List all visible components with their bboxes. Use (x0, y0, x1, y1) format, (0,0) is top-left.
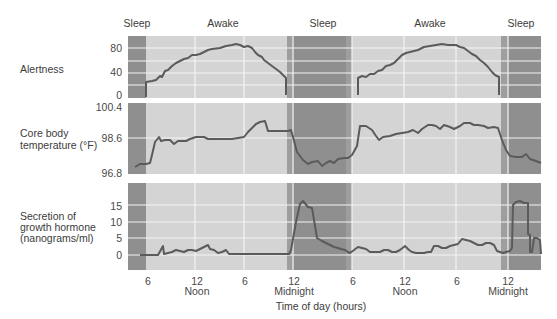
hormone-tick-0: 0 (116, 249, 122, 261)
x-axis-labels: 6 12 Noon 6 12 Midnight 6 12 Noon 6 12 M… (145, 275, 528, 312)
alertness-tick-0: 0 (116, 89, 122, 101)
alertness-tick-80: 80 (110, 42, 122, 54)
x-tick-6pm-1: 6 (242, 275, 248, 287)
temperature-tick-96-8: 96.8 (102, 167, 123, 179)
x-tick-midnight-2-sub: Midnight (488, 285, 528, 297)
hormone-tick-15: 15 (110, 200, 122, 212)
phase-label-awake-2: Awake (414, 17, 445, 29)
phase-label-sleep-3: Sleep (508, 17, 535, 29)
alertness-tick-40: 40 (110, 66, 122, 78)
panel-label-temperature-2: temperature (°F) (20, 139, 97, 151)
x-tick-6am-2: 6 (350, 275, 356, 287)
x-axis-title: Time of day (hours) (276, 300, 367, 312)
x-tick-midnight-1-sub: Midnight (274, 285, 314, 297)
panel-label-alertness: Alertness (20, 63, 64, 75)
phase-labels: Sleep Awake Sleep Awake Sleep (124, 17, 535, 29)
y-axis-labels: Alertness 80 40 0 Core body temperature … (20, 42, 122, 261)
temperature-tick-100-4: 100.4 (96, 101, 122, 113)
x-tick-noon-2-sub: Noon (392, 285, 417, 297)
x-tick-noon-1-sub: Noon (184, 285, 209, 297)
x-tick-6am-1: 6 (145, 275, 151, 287)
sleep-cycle-chart: Sleep Awake Sleep Awake Sleep (0, 0, 557, 319)
temperature-tick-98-6: 98.6 (102, 132, 123, 144)
panel-label-hormone-3: (nanograms/ml) (20, 232, 94, 244)
phase-label-awake-1: Awake (207, 17, 238, 29)
x-tick-6pm-2: 6 (454, 275, 460, 287)
panel-backgrounds (128, 36, 541, 270)
hormone-tick-10: 10 (110, 216, 122, 228)
phase-label-sleep-2: Sleep (310, 17, 337, 29)
phase-label-sleep-1: Sleep (124, 17, 151, 29)
hormone-tick-5: 5 (116, 232, 122, 244)
panel-label-temperature-1: Core body (20, 127, 69, 139)
